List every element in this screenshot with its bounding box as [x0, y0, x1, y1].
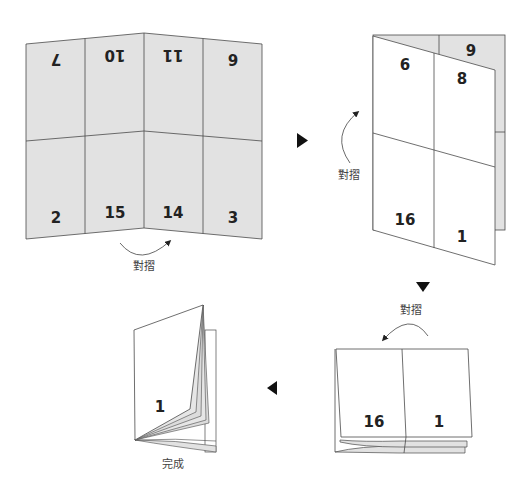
fold-arrow-icon: [342, 112, 358, 163]
page-number: 9: [466, 42, 476, 60]
step1-sheet: 7 10 11 6 2 15 14 3 對摺: [26, 33, 262, 273]
page-number: 16: [364, 413, 385, 431]
completed-label: 完成: [162, 457, 184, 471]
page-number: 3: [228, 209, 238, 227]
fold-label: 對摺: [133, 259, 155, 273]
step3-sheet: 對摺 16 1: [335, 303, 472, 453]
fold-label: 對摺: [400, 303, 422, 317]
page-number: 16: [395, 211, 416, 229]
step4-booklet: 1 完成: [134, 305, 216, 471]
page-number: 6: [400, 56, 410, 74]
page-number: 1: [457, 228, 467, 246]
arrow-down-icon: [416, 282, 430, 292]
page-number: 7: [51, 50, 61, 68]
page-number: 8: [457, 70, 467, 88]
page-number: 6: [228, 50, 238, 68]
fold-arrow-icon: [120, 241, 170, 255]
page-number: 14: [163, 204, 184, 222]
fold-arrow-icon: [383, 324, 428, 340]
arrow-right-icon: [297, 133, 308, 148]
page-number: 2: [51, 209, 61, 227]
page-number: 1: [434, 413, 444, 431]
step2-sheet: 9 6 8 16 1 對摺: [338, 35, 505, 265]
booklet-folding-diagram: 7 10 11 6 2 15 14 3 對摺 9 6 8 16 1 對摺: [0, 0, 529, 492]
page-number: 10: [105, 46, 126, 64]
page-number: 1: [155, 398, 165, 416]
page-number: 11: [163, 46, 184, 64]
arrow-left-icon: [267, 381, 277, 395]
page-number: 15: [105, 204, 126, 222]
fold-label: 對摺: [338, 168, 360, 182]
